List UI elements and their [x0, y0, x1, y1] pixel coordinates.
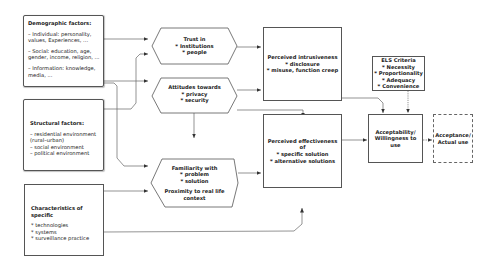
arrow-demographic-familiarity — [104, 83, 148, 166]
els-item: * Convenience — [378, 83, 420, 90]
structural-item: (rural–urban) — [30, 137, 98, 144]
els-item: * Adequacy — [382, 77, 415, 84]
characteristics-title: Characteristics of specific — [31, 205, 98, 218]
characteristics-item: * surveillance practice — [31, 235, 98, 242]
familiarity-title: Familiarity with — [172, 165, 218, 172]
effectiveness-title: Perceived effectiveness of — [264, 138, 341, 151]
els-item: * Proportionality — [374, 70, 423, 77]
intrusiveness-item: * misuse, function creep — [267, 67, 338, 74]
perceived-effectiveness-box: Perceived effectiveness of * specific so… — [263, 114, 342, 188]
demographic-item: gender, income, religion, ... — [28, 54, 99, 61]
acceptability-box: Acceptability/ Willingness to use — [368, 114, 423, 163]
structural-title: Structural factors: — [30, 120, 98, 127]
attitudes-label: Attitudes towards * privacy * security — [152, 78, 237, 110]
demographic-item: – Social: education, age, — [28, 48, 99, 55]
acceptance-box: Acceptance/ Actual use — [433, 114, 473, 163]
acceptability-title: Acceptability/ — [375, 129, 415, 136]
acceptability-title: Willingness to use — [369, 135, 422, 148]
characteristics-item: * systems — [31, 229, 98, 236]
demographic-item: – Individual: personality, — [28, 31, 99, 38]
intrusiveness-title: Perceived intrusiveness — [267, 54, 337, 61]
arrow-intrusiveness-acceptability — [342, 98, 383, 113]
familiarity-label: Familiarity with * problem * solution Pr… — [151, 159, 238, 207]
trust-item: * Institutions — [175, 43, 213, 50]
proximity-title: Proximity to real life — [164, 188, 224, 195]
trust-title: Trust in — [183, 36, 205, 43]
attitudes-item: * security — [180, 97, 208, 104]
structural-item: – residential environment — [30, 131, 98, 138]
characteristics-item: * technologies — [31, 222, 98, 229]
intrusiveness-item: * disclosure — [285, 61, 319, 68]
attitudes-item: * privacy — [182, 91, 208, 98]
els-title: ELS Criteria — [381, 57, 415, 64]
familiarity-item: * solution — [180, 178, 208, 185]
structural-factors-box: Structural factors: – residential enviro… — [23, 99, 104, 171]
demographic-factors-box: Demographic factors: – Individual: perso… — [23, 15, 104, 87]
proximity-title: context — [183, 195, 205, 202]
demographic-title: Demographic factors: — [28, 20, 99, 27]
els-criteria-box: ELS Criteria * Necessity * Proportionali… — [372, 56, 425, 91]
structural-item: – political environment — [30, 150, 98, 157]
trust-label: Trust in * Institutions * people — [152, 28, 237, 64]
demographic-item: – Information: knowledge, — [28, 65, 99, 72]
structural-item: – social environment — [30, 144, 98, 151]
demographic-item: values, Experiences, ... — [28, 37, 99, 44]
trust-item: * people — [182, 49, 206, 56]
arrow-characteristics-effectiveness — [103, 208, 302, 232]
arrow-structural-trust — [103, 54, 148, 109]
attitudes-title: Attitudes towards — [168, 84, 221, 91]
characteristics-box: Characteristics of specific * technologi… — [24, 184, 104, 256]
acceptance-title: Actual use — [438, 139, 469, 146]
effectiveness-item: * alternative solutions — [270, 158, 335, 165]
els-item: * Necessity — [382, 64, 415, 71]
perceived-intrusiveness-box: Perceived intrusiveness * disclosure * m… — [263, 27, 342, 101]
demographic-item: media, ... — [28, 72, 99, 79]
familiarity-item: * problem — [180, 171, 209, 178]
acceptance-title: Acceptance/ — [435, 132, 471, 139]
effectiveness-item: * specific solution — [276, 151, 328, 158]
